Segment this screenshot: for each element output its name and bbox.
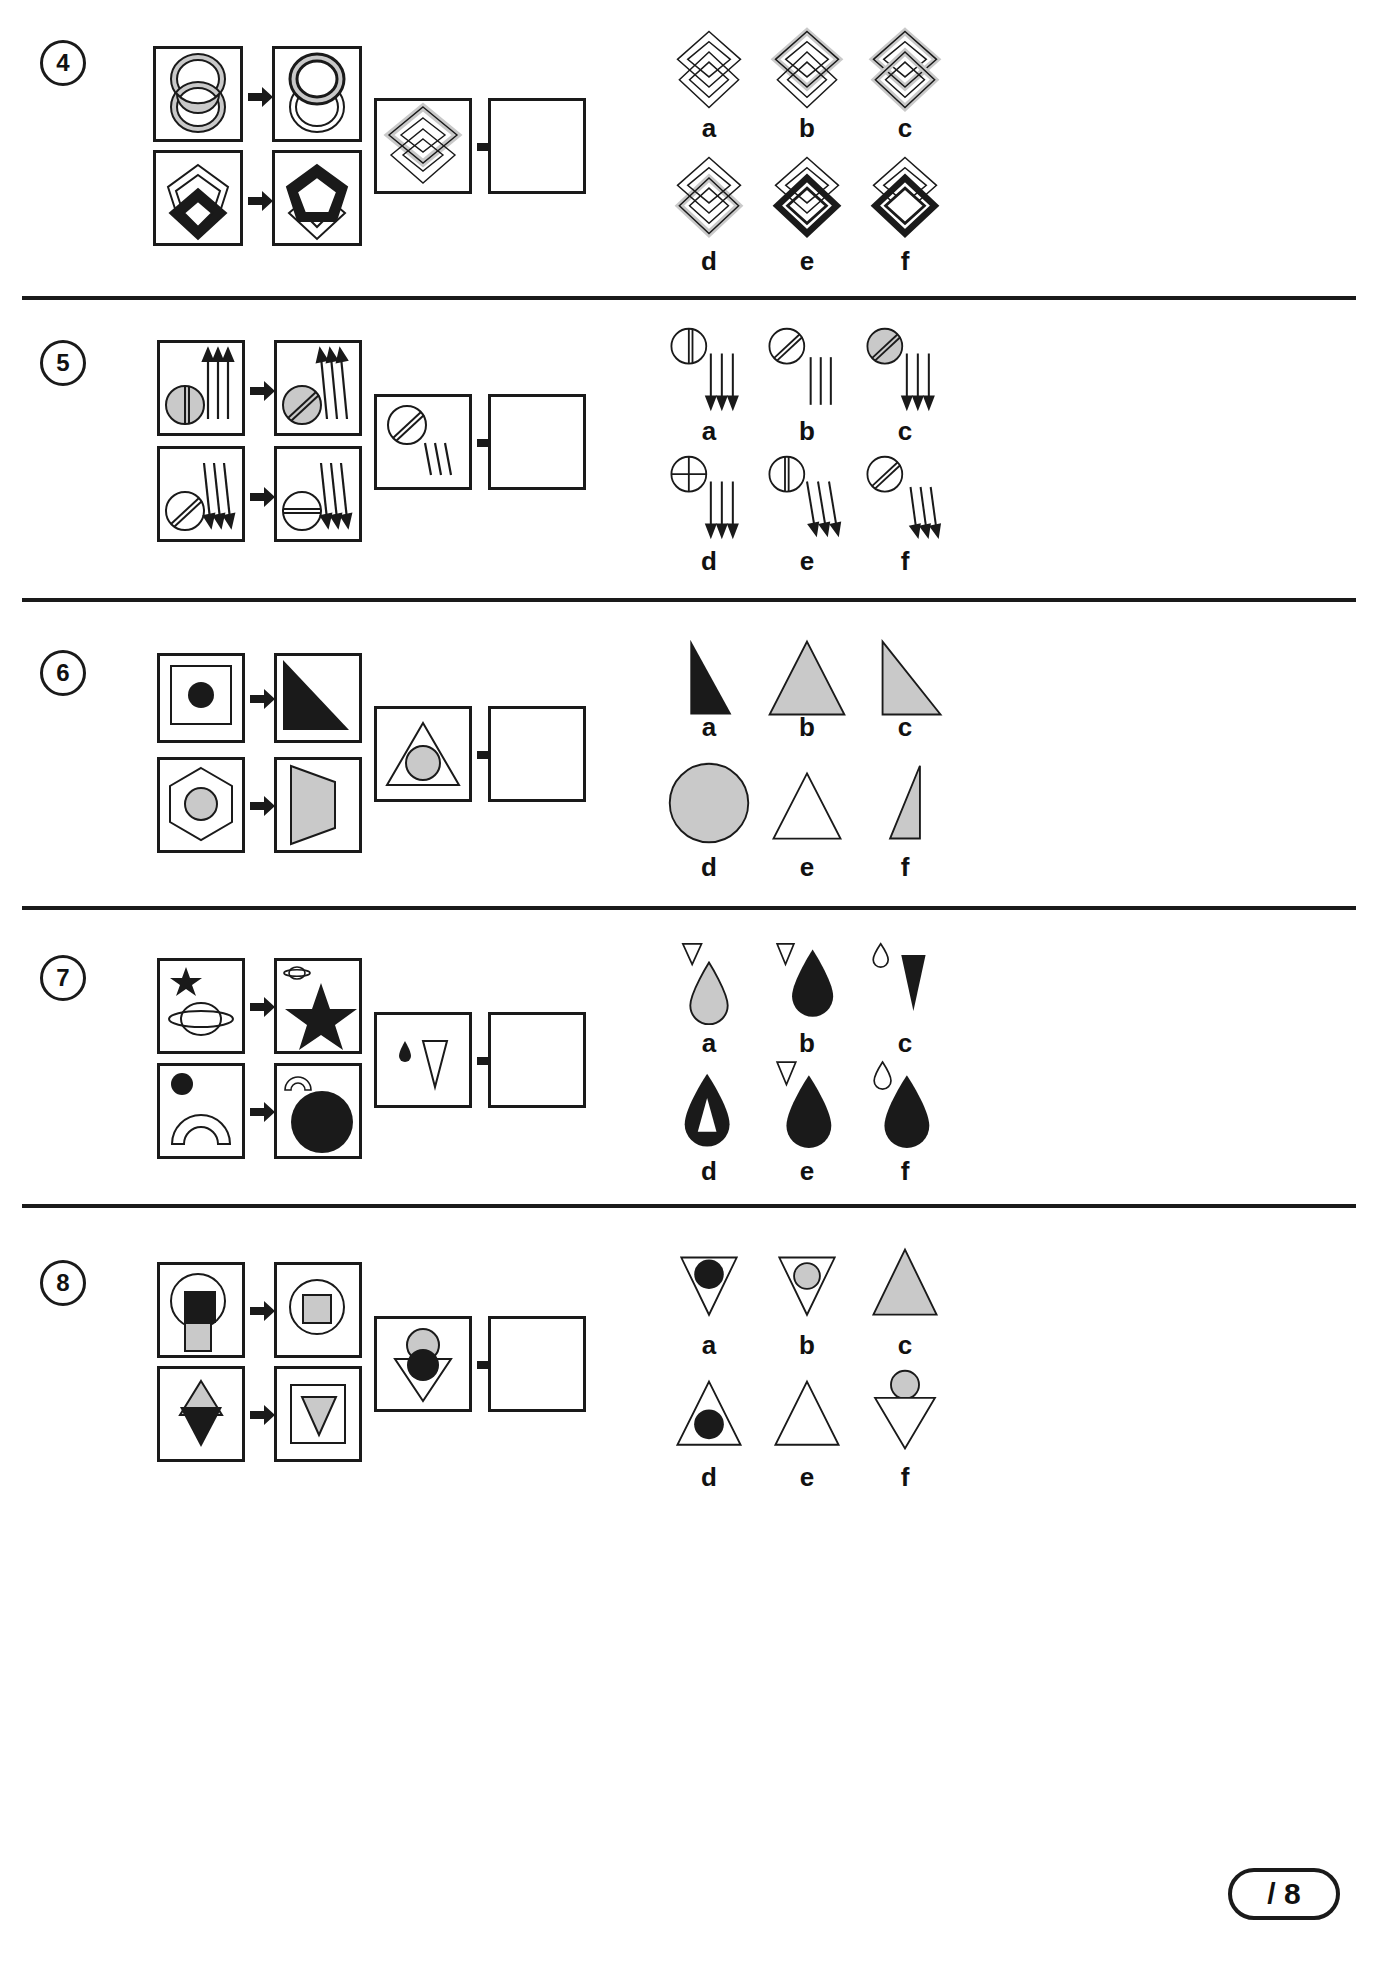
q7-option-f-label: f: [862, 1156, 948, 1187]
q6-option-d-figure[interactable]: [666, 760, 752, 846]
q5-option-f-figure[interactable]: [862, 454, 948, 542]
divider-2: [22, 598, 1356, 602]
q5-arrow-bottom: [250, 486, 276, 508]
q7-example-bottom-to: [274, 1063, 362, 1159]
q4-example-top-to: [272, 46, 362, 142]
q8-option-c-figure[interactable]: [862, 1244, 948, 1322]
q5-example-top-from: [157, 340, 245, 436]
q7-arrow-bottom: [250, 1101, 276, 1123]
q4-option-e-label: e: [764, 246, 850, 277]
q5-option-f-label: f: [862, 546, 948, 577]
q8-option-b-label: b: [764, 1330, 850, 1361]
q6-option-a-label: a: [666, 712, 752, 743]
q4-arrow-top: [248, 86, 274, 108]
q4-prompt-panel: [374, 98, 472, 194]
q5-example-bottom-to: [274, 446, 362, 542]
q8-option-b-figure[interactable]: [764, 1252, 850, 1324]
q7-option-d-figure[interactable]: [666, 1066, 752, 1158]
q5-example-top-to: [274, 340, 362, 436]
q6-option-f-label: f: [862, 852, 948, 883]
question-number-4: 4: [40, 40, 86, 86]
q5-option-e-label: e: [764, 546, 850, 577]
q6-example-bottom-from: [157, 757, 245, 853]
q7-example-bottom-from: [157, 1063, 245, 1159]
q6-option-e-figure[interactable]: [764, 766, 850, 846]
q7-option-a-label: a: [666, 1028, 752, 1059]
q7-option-d-label: d: [666, 1156, 752, 1187]
q4-option-f-figure[interactable]: [862, 152, 948, 252]
q4-option-c-label: c: [862, 113, 948, 144]
q5-answer-slot[interactable]: [488, 394, 586, 490]
q5-option-a-label: a: [666, 416, 752, 447]
q8-example-top-to: [274, 1262, 362, 1358]
q8-example-bottom-from: [157, 1366, 245, 1462]
q8-arrow-bottom: [250, 1404, 276, 1426]
question-number-5: 5: [40, 340, 86, 386]
q7-arrow-top: [250, 996, 276, 1018]
q5-option-a-figure[interactable]: [666, 326, 752, 414]
divider-3: [22, 906, 1356, 910]
q7-answer-slot[interactable]: [488, 1012, 586, 1108]
q6-example-bottom-to: [274, 757, 362, 853]
q7-option-e-figure[interactable]: [764, 1058, 850, 1154]
q8-option-a-label: a: [666, 1330, 752, 1361]
q7-option-c-label: c: [862, 1028, 948, 1059]
divider-4: [22, 1204, 1356, 1208]
q4-answer-slot[interactable]: [488, 98, 586, 194]
q8-option-e-figure[interactable]: [764, 1376, 850, 1454]
q7-example-top-to: [274, 958, 362, 1054]
q4-option-f-label: f: [862, 246, 948, 277]
q6-option-c-label: c: [862, 712, 948, 743]
q4-example-top-from: [153, 46, 243, 142]
q6-option-c-figure[interactable]: [862, 636, 948, 722]
q8-option-f-figure[interactable]: [862, 1368, 948, 1454]
question-number-7: 7: [40, 955, 86, 1001]
q8-option-a-figure[interactable]: [666, 1252, 752, 1324]
q6-example-top-from: [157, 653, 245, 743]
q6-option-f-figure[interactable]: [862, 762, 948, 846]
q6-option-a-figure[interactable]: [666, 636, 752, 722]
q5-option-b-figure[interactable]: [764, 326, 850, 414]
q7-example-top-from: [157, 958, 245, 1054]
q5-option-c-figure[interactable]: [862, 326, 948, 414]
q6-option-b-label: b: [764, 712, 850, 743]
q4-option-d-figure[interactable]: [666, 152, 752, 252]
q8-option-d-label: d: [666, 1462, 752, 1493]
q8-arrow-top: [250, 1300, 276, 1322]
q6-arrow-top: [250, 688, 276, 710]
q4-option-b-label: b: [764, 113, 850, 144]
q5-arrow-top: [250, 380, 276, 402]
q8-prompt-panel: [374, 1316, 472, 1412]
q6-option-e-label: e: [764, 852, 850, 883]
q6-answer-slot[interactable]: [488, 706, 586, 802]
question-number-6: 6: [40, 650, 86, 696]
q7-option-e-label: e: [764, 1156, 850, 1187]
q4-option-b-figure[interactable]: [764, 26, 850, 126]
q7-option-b-label: b: [764, 1028, 850, 1059]
q4-example-bottom-to: [272, 150, 362, 246]
q7-option-f-figure[interactable]: [862, 1058, 948, 1154]
q7-option-b-figure[interactable]: [764, 938, 850, 1030]
q4-option-a-label: a: [666, 113, 752, 144]
q7-option-a-figure[interactable]: [666, 938, 752, 1030]
q6-option-b-figure[interactable]: [764, 636, 850, 722]
q4-option-a-figure[interactable]: [666, 26, 752, 126]
q8-answer-slot[interactable]: [488, 1316, 586, 1412]
q6-arrow-bottom: [250, 795, 276, 817]
q6-prompt-panel: [374, 706, 472, 802]
q5-option-e-figure[interactable]: [764, 454, 850, 542]
score-box[interactable]: / 8: [1228, 1868, 1340, 1920]
q8-option-e-label: e: [764, 1462, 850, 1493]
q4-option-c-figure[interactable]: [862, 26, 948, 126]
q8-option-f-label: f: [862, 1462, 948, 1493]
q4-option-e-figure[interactable]: [764, 152, 850, 252]
q7-option-c-figure[interactable]: [862, 938, 948, 1030]
q8-example-bottom-to: [274, 1366, 362, 1462]
q5-option-d-figure[interactable]: [666, 454, 752, 542]
q4-option-d-label: d: [666, 246, 752, 277]
q6-option-d-label: d: [666, 852, 752, 883]
test-page: 4: [0, 0, 1378, 1987]
q8-option-d-figure[interactable]: [666, 1376, 752, 1454]
q6-example-top-to: [274, 653, 362, 743]
q5-option-b-label: b: [764, 416, 850, 447]
